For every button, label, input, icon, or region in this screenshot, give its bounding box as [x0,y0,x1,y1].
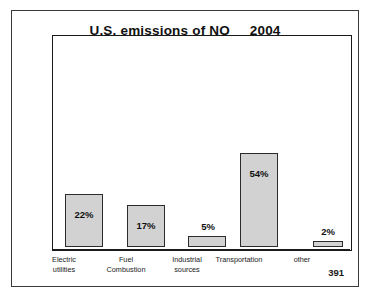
category-label-line-2: sources [155,265,219,275]
bar-value-electric-utilities: 22% [66,209,102,220]
category-label-line-1: other [270,255,334,265]
category-label-line-2: Combustion [94,265,158,275]
bar-transportation[interactable]: 54% [240,153,278,247]
category-label-other: other [270,255,334,265]
bar-value-industrial-sources: 5% [188,221,228,232]
category-label-line-1: Transportation [207,255,271,265]
bar-value-fuel-combustion: 17% [128,220,164,231]
axis-baseline [53,249,350,251]
bar-other[interactable] [313,241,343,247]
plot-area: 22% 17% 5% 54% 2% [53,36,351,250]
category-label-line-2: utilities [32,265,96,275]
bar-industrial-sources[interactable] [188,236,226,247]
slide-frame: U.S. emissions of NO 2004 22% 17% 5% 54%… [11,10,359,287]
category-label-line-1: Electric [32,255,96,265]
bar-value-transportation: 54% [241,168,277,179]
bar-electric-utilities[interactable]: 22% [65,194,103,247]
category-label-line-1: Fuel [94,255,158,265]
page-number: 391 [328,267,344,278]
bar-value-other: 2% [308,226,348,237]
category-label-electric-utilities: Electric utilities [32,255,96,274]
bar-fuel-combustion[interactable]: 17% [127,205,165,247]
category-label-transportation: Transportation [207,255,271,265]
chart-plot-frame: 22% 17% 5% 54% 2% [52,35,352,251]
category-label-fuel-combustion: Fuel Combustion [94,255,158,274]
